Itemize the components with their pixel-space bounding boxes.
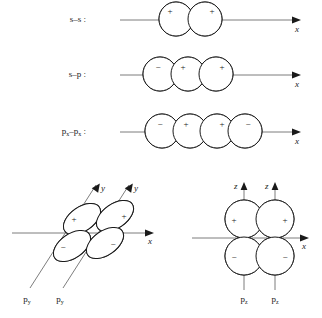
orbital-sign: + <box>219 119 224 129</box>
orbital-sign: − <box>231 252 236 262</box>
orbital-lobe-outline <box>256 237 294 275</box>
orbital-label-pz-2-sub: z <box>276 299 279 305</box>
x-axis-arrowhead-row3 <box>292 129 301 136</box>
orbital-sign: − <box>282 252 287 262</box>
diagram-pz-pz: x z z + + − − <box>192 181 309 305</box>
orbital-sign: + <box>231 215 236 225</box>
x-axis-label-bl: x <box>147 236 152 246</box>
orbital-sign: − <box>110 239 115 249</box>
orbital-label-pz-1: pz <box>240 294 248 305</box>
row-s-p: s–p : x − + + <box>69 57 301 91</box>
orbital-sign: + <box>180 62 185 72</box>
z-axis-arrowhead-2 <box>272 182 279 190</box>
orbital-label-py-2: py <box>56 294 64 305</box>
orbital-lobe-outline <box>188 2 222 36</box>
orbital-sign: + <box>121 211 126 221</box>
orbital-label-pz-1-sub: z <box>245 299 248 305</box>
orbital-label-py-2-sub: y <box>61 299 64 305</box>
row-s-s: s–s : x + + <box>70 2 301 36</box>
orbital-sign: + <box>183 119 188 129</box>
diagram-py-py: x y y + + − − <box>12 181 154 305</box>
y-axis-label-2: y <box>133 183 138 193</box>
row-px-px: px–px : x − + + − <box>62 114 301 148</box>
orbital-label-pz-2: pz <box>271 294 279 305</box>
x-axis-label-row3: x <box>294 136 299 146</box>
orbital-overlap-figure: s–s : x + + s–p : x <box>0 0 322 318</box>
orbital-lobe-outline <box>199 57 233 91</box>
x-axis-label-row2: x <box>294 79 299 89</box>
orbital-sign: + <box>209 6 214 16</box>
orbital-sign: − <box>60 242 65 252</box>
orbital-sign: + <box>71 214 76 224</box>
x-axis-arrowhead-row1 <box>292 17 301 24</box>
orbital-label-py-1: py <box>23 294 31 305</box>
orbital-label-py-1-sub: y <box>28 299 31 305</box>
row-label-s-s: s–s : <box>70 14 86 24</box>
x-axis-label-row1: x <box>294 24 299 34</box>
row-label-px-px-mid: –p <box>68 126 79 136</box>
orbital-sign: − <box>245 119 250 129</box>
x-axis-arrowhead-row2 <box>292 72 301 79</box>
orbital-lobe-outline <box>256 200 294 238</box>
row-label-s-p: s–p : <box>69 69 86 79</box>
z-axis-arrowhead-1 <box>241 182 248 190</box>
row-label-px-px-end: : <box>81 126 86 136</box>
z-axis-label-1: z <box>233 181 238 191</box>
orbital-sign: + <box>282 215 287 225</box>
y-axis-label-1: y <box>100 183 105 193</box>
orbital-sign: + <box>167 6 172 16</box>
x-axis-label-br: x <box>301 241 306 251</box>
figure-canvas: s–s : x + + s–p : x <box>0 0 322 318</box>
z-axis-label-2: z <box>264 181 269 191</box>
orbital-sign: + <box>219 62 224 72</box>
orbital-sign: − <box>155 62 160 72</box>
row-label-px-px: px–px : <box>62 126 86 137</box>
orbital-sign: − <box>157 119 162 129</box>
